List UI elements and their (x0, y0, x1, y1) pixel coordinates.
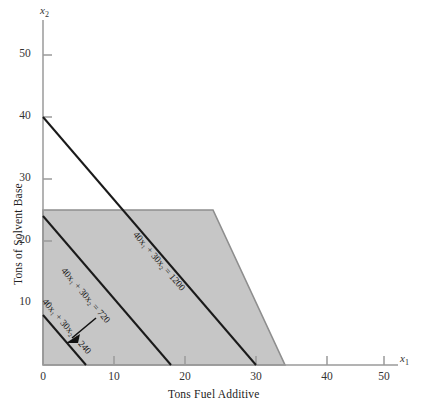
x-tick-label-20: 20 (175, 370, 195, 382)
x-tick-label-40: 40 (317, 370, 337, 382)
x-axis-symbol-sub: 1 (405, 358, 409, 367)
x-tick-label-0: 0 (33, 370, 53, 382)
y-tick-label-40: 40 (14, 109, 36, 121)
chart-canvas: x2 x1 50 40 30 20 10 0 10 20 30 40 50 To… (0, 0, 422, 411)
y-tick-label-50: 50 (14, 47, 36, 59)
y-axis-symbol: x2 (40, 4, 49, 19)
x-tick-label-50: 50 (374, 370, 394, 382)
chart-svg (0, 0, 422, 411)
x-tick-label-30: 30 (246, 370, 266, 382)
x-tick-label-10: 10 (104, 370, 124, 382)
y-axis-title: Tons of Solvent Base (12, 183, 24, 285)
y-axis-symbol-sub: 2 (45, 10, 49, 19)
x-axis-title: Tons Fuel Additive (168, 388, 260, 400)
x-axis-symbol: x1 (400, 352, 409, 367)
y-tick-label-30: 30 (14, 171, 36, 183)
y-tick-label-10: 10 (14, 295, 36, 307)
